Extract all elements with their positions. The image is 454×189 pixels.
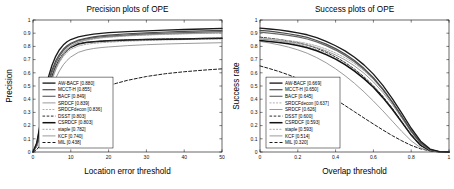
legend-label-aw-bacf: AW-BACF [0.669] — [285, 81, 321, 86]
legend-label-mcct-h: MCCT-H [0.650] — [285, 87, 318, 92]
chart-title: Precision plots of OPE — [87, 5, 169, 14]
legend-label-bacf: BACF [0.849] — [58, 94, 86, 99]
y-tick-label: 1 — [255, 17, 258, 23]
x-tick-label: 30 — [144, 154, 150, 160]
x-tick-label: 50 — [219, 154, 225, 160]
x-axis-label: Location error threshold — [84, 167, 171, 176]
y-tick-label: 0.1 — [24, 136, 31, 142]
legend-label-staple: staple [0.782] — [58, 127, 86, 132]
legend-label-staple: staple [0.593] — [285, 127, 313, 132]
legend-label-dsst: DSST [0.803] — [58, 114, 86, 119]
x-axis-label: Overlap threshold — [322, 167, 387, 176]
x-tick-label: 0.8 — [408, 154, 415, 160]
y-tick-label: 0.2 — [251, 122, 258, 128]
y-tick-label: 0.7 — [24, 56, 31, 62]
y-tick-label: 0 — [28, 149, 31, 155]
y-tick-label: 0.4 — [24, 96, 31, 102]
precision-plot-panel: Precision plots of OPE0102030405000.10.2… — [0, 0, 227, 189]
legend-label-mil: MIL [0.438] — [58, 140, 81, 145]
x-tick-label: 20 — [106, 154, 112, 160]
legend-label-kcf: KCF [0.740] — [58, 134, 83, 139]
y-tick-label: 0.6 — [24, 70, 31, 76]
legend-label-csrdcf: CSRDCF [0.593] — [285, 120, 319, 125]
y-tick-label: 0 — [255, 149, 258, 155]
y-tick-label: 0.9 — [24, 30, 31, 36]
y-tick-label: 0.1 — [251, 136, 258, 142]
y-tick-label: 0.4 — [251, 96, 258, 102]
legend-label-dsst: DSST [0.600] — [285, 114, 313, 119]
y-tick-label: 0.3 — [24, 109, 31, 115]
success-plot-panel: Success plots of OPE00.20.40.60.8100.10.… — [227, 0, 454, 189]
x-tick-label: 0.4 — [332, 154, 339, 160]
x-tick-label: 1 — [448, 154, 451, 160]
x-tick-label: 0.2 — [294, 154, 301, 160]
x-tick-label: 0.6 — [370, 154, 377, 160]
y-tick-label: 0.9 — [251, 30, 258, 36]
y-axis-label: Precision — [5, 69, 14, 103]
legend-label-srdcfdecon: SRDCFdecon [0.637] — [285, 101, 329, 106]
x-tick-label: 0 — [32, 154, 35, 160]
legend-label-csrdcf: CSRDCF [0.803] — [58, 120, 92, 125]
y-tick-label: 1 — [28, 17, 31, 23]
y-tick-label: 0.5 — [251, 83, 258, 89]
legend-label-mcct-h: MCCT-H [0.855] — [58, 87, 91, 92]
legend-label-bacf: BACF [0.645] — [285, 94, 313, 99]
figure-container: Precision plots of OPE0102030405000.10.2… — [0, 0, 454, 189]
x-tick-label: 10 — [68, 154, 74, 160]
legend-label-kcf: KCF [0.514] — [285, 134, 310, 139]
y-tick-label: 0.3 — [251, 109, 258, 115]
y-axis-label: Success rate — [232, 62, 241, 110]
y-tick-label: 0.5 — [24, 83, 31, 89]
y-tick-label: 0.8 — [24, 43, 31, 49]
legend-label-srdcf: SRDCF [0.839] — [58, 101, 89, 106]
legend-label-mil: MIL [0.320] — [285, 140, 308, 145]
x-tick-label: 0 — [259, 154, 262, 160]
legend-label-srdcfdecon: SRDCFdecon [0.836] — [58, 107, 102, 112]
legend-label-srdcf: SRDCF [0.626] — [285, 107, 316, 112]
legend-label-aw-bacf: AW-BACF [0.880] — [58, 81, 94, 86]
y-tick-label: 0.8 — [251, 43, 258, 49]
x-tick-label: 40 — [181, 154, 187, 160]
y-tick-label: 0.2 — [24, 122, 31, 128]
y-tick-label: 0.6 — [251, 70, 258, 76]
chart-title: Success plots of OPE — [315, 5, 395, 14]
y-tick-label: 0.7 — [251, 56, 258, 62]
